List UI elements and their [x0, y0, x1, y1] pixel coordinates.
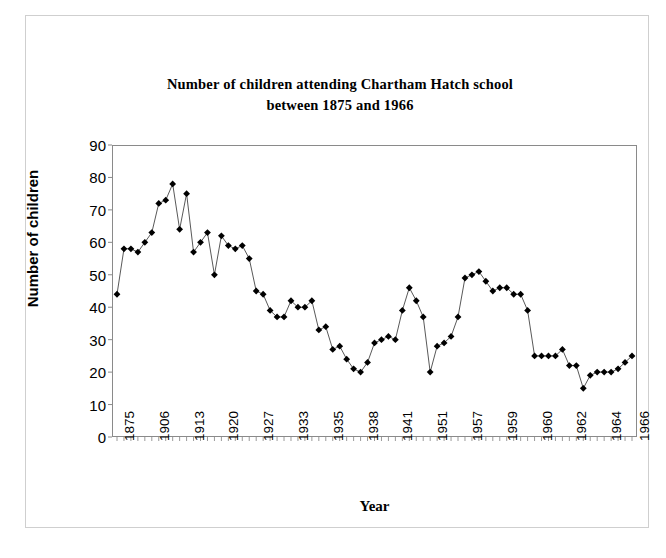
data-point-marker: [128, 245, 135, 252]
x-tick-label: 1959: [505, 411, 520, 441]
data-point-marker: [322, 323, 329, 330]
data-point-marker: [420, 314, 427, 321]
x-tick-label: 1920: [226, 411, 241, 441]
data-point-marker: [315, 327, 322, 334]
data-point-marker: [413, 297, 420, 304]
data-point-marker: [253, 288, 260, 295]
data-point-marker: [475, 268, 482, 275]
y-tick-label: 0: [70, 429, 106, 446]
data-point-marker: [260, 291, 267, 298]
x-tick-label: 1933: [296, 411, 311, 441]
x-tick-label: 1960: [540, 411, 555, 441]
data-point-marker: [587, 372, 594, 379]
data-point-marker: [239, 242, 246, 249]
data-point-marker: [601, 369, 608, 376]
data-point-marker: [566, 362, 573, 369]
data-point-marker: [155, 200, 162, 207]
chart-page: Number of children attending Chartham Ha…: [0, 0, 666, 558]
data-point-marker: [399, 307, 406, 314]
y-tick-label: 90: [70, 137, 106, 154]
data-point-marker: [531, 352, 538, 359]
data-point-marker: [329, 346, 336, 353]
data-point-marker: [371, 340, 378, 347]
data-point-marker: [183, 190, 190, 197]
x-tick-label: 1913: [192, 411, 207, 441]
y-tick-label: 70: [70, 201, 106, 218]
data-point-marker: [114, 291, 121, 298]
data-point-marker: [469, 271, 476, 278]
data-point-marker: [462, 275, 469, 282]
data-point-marker: [378, 336, 385, 343]
data-point-marker: [357, 369, 364, 376]
data-point-marker: [343, 356, 350, 363]
data-point-marker: [225, 242, 232, 249]
data-point-marker: [580, 385, 587, 392]
data-point-marker: [232, 245, 239, 252]
data-point-marker: [134, 249, 141, 256]
data-point-marker: [608, 369, 615, 376]
data-point-marker: [496, 284, 503, 291]
data-point-marker: [406, 284, 413, 291]
data-point-marker: [281, 314, 288, 321]
data-point-marker: [517, 291, 524, 298]
x-tick-label: 1935: [331, 411, 346, 441]
data-point-marker: [545, 352, 552, 359]
data-point-marker: [148, 229, 155, 236]
y-tick-label: 20: [70, 364, 106, 381]
x-tick-label: 1941: [400, 411, 415, 441]
x-tick-label: 1962: [574, 411, 589, 441]
y-axis-tick-labels: 9080706050403020100: [70, 145, 106, 437]
x-tick-label: 1951: [435, 411, 450, 441]
data-point-marker: [246, 255, 253, 262]
data-point-marker: [176, 226, 183, 233]
data-point-marker: [392, 336, 399, 343]
x-tick-label: 1927: [261, 411, 276, 441]
axis-tick-marks: [108, 145, 632, 441]
data-point-marker: [169, 181, 176, 188]
data-point-marker: [455, 314, 462, 321]
data-point-marker: [336, 343, 343, 350]
data-point-marker: [162, 197, 169, 204]
data-point-marker: [211, 271, 218, 278]
data-point-marker: [573, 362, 580, 369]
series-markers: [114, 181, 636, 392]
data-point-marker: [350, 365, 357, 372]
y-tick-label: 30: [70, 331, 106, 348]
data-point-marker: [364, 359, 371, 366]
x-tick-label: 1906: [157, 411, 172, 441]
x-axis-title: Year: [112, 498, 637, 515]
chart-title: Number of children attending Chartham Ha…: [60, 74, 620, 116]
y-tick-label: 40: [70, 299, 106, 316]
data-point-marker: [482, 278, 489, 285]
data-point-marker: [204, 229, 211, 236]
x-tick-label: 1957: [470, 411, 485, 441]
data-point-marker: [197, 239, 204, 246]
chart-title-line-1: Number of children attending Chartham Ha…: [60, 74, 620, 95]
x-axis-tick-labels: 1875190619131920192719331935193819411951…: [112, 441, 637, 497]
data-point-marker: [385, 333, 392, 340]
data-point-marker: [218, 232, 225, 239]
y-axis-title: Number of children: [24, 144, 41, 334]
data-point-marker: [594, 369, 601, 376]
y-tick-label: 80: [70, 169, 106, 186]
plot-series-canvas: [112, 145, 637, 437]
y-tick-label: 50: [70, 266, 106, 283]
data-point-marker: [489, 288, 496, 295]
data-point-marker: [190, 249, 197, 256]
data-point-marker: [121, 245, 128, 252]
data-point-marker: [141, 239, 148, 246]
x-tick-label: 1966: [637, 411, 652, 441]
x-tick-label: 1875: [122, 411, 137, 441]
data-point-marker: [524, 307, 531, 314]
chart-title-line-2: between 1875 and 1966: [60, 95, 620, 116]
x-tick-label: 1964: [609, 411, 624, 441]
y-tick-label: 60: [70, 234, 106, 251]
data-point-marker: [427, 369, 434, 376]
x-tick-label: 1938: [366, 411, 381, 441]
data-point-marker: [434, 343, 441, 350]
data-point-marker: [538, 352, 545, 359]
y-tick-label: 10: [70, 396, 106, 413]
